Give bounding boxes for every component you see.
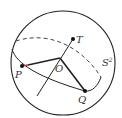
sphere-diagram: P O T Q S2 bbox=[0, 0, 122, 118]
label-sphere-exponent: 2 bbox=[108, 56, 113, 63]
label-p: P bbox=[14, 69, 22, 80]
point-q bbox=[83, 89, 87, 93]
point-t bbox=[71, 37, 75, 41]
label-o: O bbox=[55, 63, 63, 74]
point-p bbox=[20, 64, 24, 68]
segment-oq bbox=[60, 58, 85, 91]
label-q: Q bbox=[78, 94, 86, 105]
label-sphere: S2 bbox=[102, 56, 113, 68]
label-t: T bbox=[76, 34, 84, 45]
